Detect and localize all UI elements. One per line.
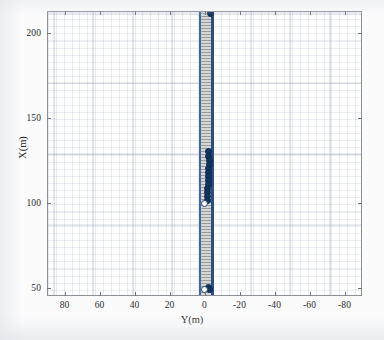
- x-tick-mark-top: [345, 11, 346, 15]
- x-tick-mark-top: [310, 11, 311, 15]
- x-tick-mark: [65, 292, 66, 296]
- y-tick-label: 100: [7, 198, 41, 208]
- x-tick-label: 0: [202, 300, 207, 310]
- y-tick-label: 50: [7, 283, 41, 293]
- page-scan-artifact: [0, 326, 384, 340]
- x-tick-mark: [240, 292, 241, 296]
- road-edge-left: [199, 11, 201, 296]
- figure-container: 806040200-20-40-60-80 50100150200 Y(m) X…: [0, 0, 384, 340]
- y-tick-label: 200: [7, 28, 41, 38]
- y-tick-mark-right: [358, 33, 362, 34]
- x-tick-label: 20: [165, 300, 175, 310]
- y-tick-mark: [47, 203, 51, 204]
- x-tick-label: 60: [95, 300, 105, 310]
- x-tick-label: -60: [303, 300, 316, 310]
- y-tick-mark-right: [358, 203, 362, 204]
- plot-area[interactable]: [47, 11, 362, 296]
- x-tick-mark-top: [135, 11, 136, 15]
- x-tick-mark-top: [205, 11, 206, 15]
- x-tick-mark: [345, 292, 346, 296]
- x-tick-mark-top: [240, 11, 241, 15]
- y-tick-mark: [47, 33, 51, 34]
- x-tick-mark: [205, 292, 206, 296]
- x-tick-mark-top: [65, 11, 66, 15]
- x-tick-label: -80: [338, 300, 351, 310]
- x-tick-mark: [310, 292, 311, 296]
- y-tick-mark: [47, 288, 51, 289]
- waypoint-marker: [207, 11, 214, 17]
- x-tick-label: -20: [233, 300, 246, 310]
- x-tick-label: -40: [268, 300, 281, 310]
- y-tick-mark: [47, 118, 51, 119]
- x-axis-title: Y(m): [0, 314, 384, 325]
- x-tick-mark: [100, 292, 101, 296]
- y-tick-mark-right: [358, 288, 362, 289]
- x-tick-mark: [275, 292, 276, 296]
- x-tick-mark-top: [170, 11, 171, 15]
- x-tick-label: 80: [60, 300, 70, 310]
- x-tick-mark-top: [100, 11, 101, 15]
- y-tick-mark-right: [358, 118, 362, 119]
- x-tick-mark: [170, 292, 171, 296]
- x-tick-mark-top: [275, 11, 276, 15]
- x-tick-mark: [135, 292, 136, 296]
- x-tick-label: 40: [130, 300, 140, 310]
- y-axis-title: X(m): [17, 118, 28, 178]
